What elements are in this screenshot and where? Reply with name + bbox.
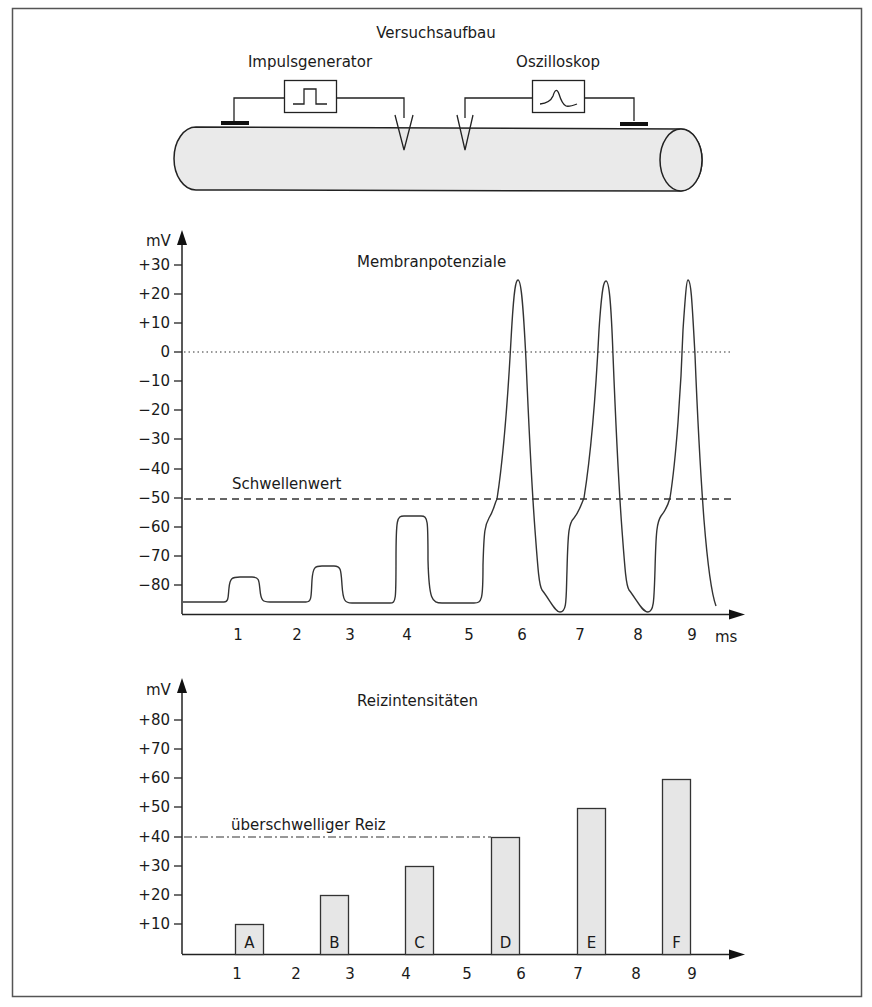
svg-text:5: 5	[462, 965, 472, 983]
svg-text:9: 9	[687, 626, 697, 644]
svg-text:+70: +70	[138, 740, 170, 758]
svg-text:F: F	[672, 934, 681, 952]
svg-text:6: 6	[517, 626, 527, 644]
experimental-setup: Versuchsaufbau Impulsgenerator Oszillosk…	[174, 24, 702, 191]
bars	[236, 780, 691, 955]
svg-text:4: 4	[402, 626, 412, 644]
svg-text:E: E	[587, 934, 596, 952]
y-ticks	[174, 720, 182, 924]
y-axis-label: mV	[146, 681, 172, 699]
svg-text:+20: +20	[138, 285, 170, 303]
svg-text:7: 7	[575, 626, 585, 644]
svg-text:3: 3	[345, 626, 355, 644]
generator-label: Impulsgenerator	[248, 53, 373, 71]
svg-text:+60: +60	[138, 769, 170, 787]
x-tick-labels: 1 2 3 4 5 6 7 8 9	[233, 626, 697, 644]
svg-text:−60: −60	[138, 518, 170, 536]
svg-text:0: 0	[160, 343, 170, 361]
svg-text:2: 2	[292, 626, 302, 644]
svg-text:+40: +40	[138, 828, 170, 846]
svg-text:−80: −80	[138, 576, 170, 594]
svg-text:−20: −20	[138, 401, 170, 419]
svg-text:4: 4	[401, 965, 411, 983]
threshold-label: Schwellenwert	[232, 475, 342, 493]
svg-text:+10: +10	[138, 915, 170, 933]
svg-text:D: D	[500, 934, 512, 952]
svg-text:9: 9	[687, 965, 697, 983]
stimulus-intensity-chart: Reizintensitäten mV +80 +70 +60 +50 +40 …	[138, 678, 745, 983]
generator-wire-electrode	[337, 98, 404, 118]
bar-e	[578, 809, 606, 955]
ground-symbol-left	[221, 121, 249, 125]
svg-text:3: 3	[345, 965, 355, 983]
svg-text:1: 1	[233, 626, 243, 644]
x-tick-labels: 1 2 3 4 5 6 7 8 9	[232, 965, 697, 983]
x-axis-arrow-icon	[729, 610, 745, 620]
ground-symbol-right	[620, 122, 648, 126]
svg-text:B: B	[329, 934, 339, 952]
y-tick-labels: +30 +20 +10 0 −10 −20 −30 −40 −50 −60 −7…	[138, 256, 170, 594]
svg-text:−10: −10	[138, 372, 170, 390]
y-tick-labels: +80 +70 +60 +50 +40 +30 +20 +10	[138, 711, 170, 933]
svg-text:−40: −40	[138, 460, 170, 478]
bar-labels: A B C D E F	[244, 934, 680, 952]
svg-text:+30: +30	[138, 857, 170, 875]
figure: Versuchsaufbau Impulsgenerator Oszillosk…	[0, 0, 872, 1007]
y-axis-label: mV	[146, 232, 172, 250]
svg-text:C: C	[414, 934, 424, 952]
membrane-potential-trace	[183, 280, 716, 612]
svg-text:8: 8	[631, 965, 641, 983]
membrane-potential-chart: Membranpotenziale mV +30 +20 +10 0	[138, 230, 745, 646]
svg-text:+10: +10	[138, 314, 170, 332]
chart-title: Reizintensitäten	[357, 692, 478, 710]
svg-text:1: 1	[232, 965, 242, 983]
svg-text:8: 8	[633, 626, 643, 644]
svg-text:−50: −50	[138, 489, 170, 507]
svg-text:5: 5	[464, 626, 474, 644]
svg-text:+80: +80	[138, 711, 170, 729]
svg-text:−70: −70	[138, 547, 170, 565]
generator-wire	[234, 98, 284, 121]
y-ticks	[174, 265, 182, 585]
oscilloscope-wire	[585, 98, 634, 121]
y-axis-arrow-icon	[177, 678, 187, 693]
svg-text:7: 7	[573, 965, 583, 983]
svg-text:+30: +30	[138, 256, 170, 274]
x-axis-arrow-icon	[729, 950, 745, 960]
suprathreshold-label: überschwelliger Reiz	[231, 816, 386, 834]
setup-title: Versuchsaufbau	[376, 24, 496, 42]
svg-text:+20: +20	[138, 886, 170, 904]
svg-text:+50: +50	[138, 798, 170, 816]
svg-text:2: 2	[291, 965, 301, 983]
chart-title: Membranpotenziale	[357, 253, 506, 271]
axon-cylinder	[174, 127, 702, 191]
svg-text:−30: −30	[138, 430, 170, 448]
x-axis-label: ms	[715, 628, 738, 646]
svg-text:A: A	[244, 934, 255, 952]
y-axis-arrow-icon	[177, 230, 187, 245]
svg-text:6: 6	[516, 965, 526, 983]
oscilloscope-label: Oszilloskop	[516, 53, 600, 71]
bar-f	[663, 780, 691, 955]
oscilloscope-wire-electrode	[465, 98, 532, 118]
